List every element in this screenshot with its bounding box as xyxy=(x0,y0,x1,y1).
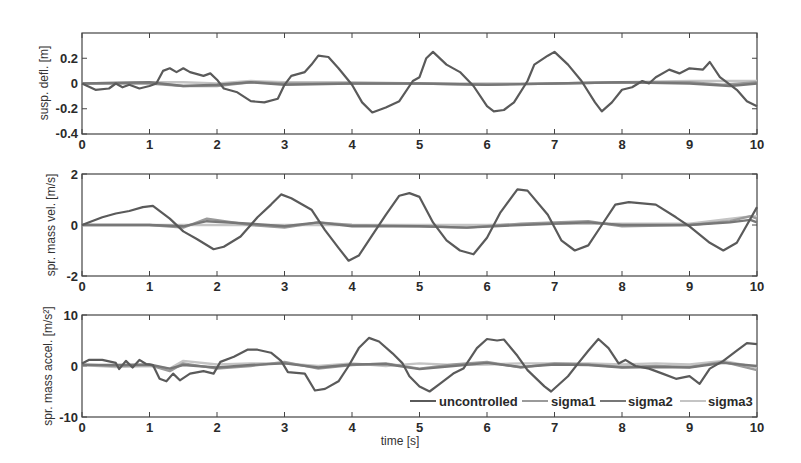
x-tick-label: 4 xyxy=(348,420,356,435)
x-tick-label: 4 xyxy=(348,137,356,152)
x-tick-label: 2 xyxy=(213,420,220,435)
legend-label-sigma1: sigma1 xyxy=(551,394,596,409)
x-tick-label: 8 xyxy=(618,279,625,294)
x-tick-label: 3 xyxy=(281,279,288,294)
x-tick-label: 6 xyxy=(483,279,490,294)
y-tick-label: 10 xyxy=(64,308,78,323)
x-tick-label: 10 xyxy=(750,420,764,435)
y-tick-label: -0.2 xyxy=(56,101,78,116)
x-tick-label: 7 xyxy=(551,420,558,435)
series-lines xyxy=(82,338,757,392)
y-tick-label: -0.4 xyxy=(56,126,79,141)
x-tick-label: 7 xyxy=(551,279,558,294)
legend: uncontrolled sigma1 sigma2 sigma3 xyxy=(410,394,753,409)
x-tick-label: 3 xyxy=(281,137,288,152)
legend-label-sigma3: sigma3 xyxy=(708,394,753,409)
y-tick-label: 0 xyxy=(71,218,78,233)
x-tick-label: 2 xyxy=(213,137,220,152)
y-tick-label: -10 xyxy=(59,410,78,425)
y-tick-label: 0 xyxy=(71,76,78,91)
x-tick-label: 1 xyxy=(146,420,153,435)
x-tick-label: 9 xyxy=(686,420,693,435)
x-axis-label: time [s] xyxy=(381,434,420,448)
series-line-sigma3 xyxy=(82,216,757,225)
x-tick-label: 2 xyxy=(213,279,220,294)
panel-spr-mass-accel: 012345678910 10 0 -10 spr. mass accel. [… xyxy=(41,306,764,448)
series-lines xyxy=(82,52,757,113)
x-tick-label: 9 xyxy=(686,137,693,152)
x-tick-label: 0 xyxy=(78,420,85,435)
x-tick-label: 4 xyxy=(348,279,356,294)
y-axis-label: susp. defl. [m] xyxy=(37,46,51,121)
x-tick-label: 1 xyxy=(146,279,153,294)
y-tick-label: 2 xyxy=(71,167,78,182)
series-lines xyxy=(82,189,757,260)
y-tick-label: 0 xyxy=(71,359,78,374)
x-tick-label: 3 xyxy=(281,420,288,435)
x-tick-label: 8 xyxy=(618,420,625,435)
panel-spr-mass-vel: 012345678910 2 0 -2 spr. mass vel. [m/s] xyxy=(44,167,764,294)
panel-susp-defl: 012345678910 0.2 0 -0.2 -0.4 susp. defl.… xyxy=(37,33,764,152)
legend-label-uncontrolled: uncontrolled xyxy=(439,394,518,409)
legend-label-sigma2: sigma2 xyxy=(628,394,673,409)
x-tick-label: 0 xyxy=(78,137,85,152)
x-tick-label: 0 xyxy=(78,279,85,294)
x-tick-label: 5 xyxy=(416,279,423,294)
x-tick-label: 6 xyxy=(483,420,490,435)
x-tick-label: 6 xyxy=(483,137,490,152)
x-tick-label: 8 xyxy=(618,137,625,152)
figure: 012345678910 0.2 0 -0.2 -0.4 susp. defl.… xyxy=(0,0,801,463)
x-tick-label: 5 xyxy=(416,420,423,435)
y-tick-label: -2 xyxy=(66,269,78,284)
y-axis-label: spr. mass vel. [m/s] xyxy=(44,174,58,277)
x-tick-label: 10 xyxy=(750,137,764,152)
y-axis-label: spr. mass accel. [m/s²] xyxy=(41,306,55,425)
x-tick-label: 5 xyxy=(416,137,423,152)
x-tick-label: 9 xyxy=(686,279,693,294)
x-tick-label: 10 xyxy=(750,279,764,294)
x-tick-label: 7 xyxy=(551,137,558,152)
y-tick-label: 0.2 xyxy=(60,51,78,66)
x-tick-label: 1 xyxy=(146,137,153,152)
